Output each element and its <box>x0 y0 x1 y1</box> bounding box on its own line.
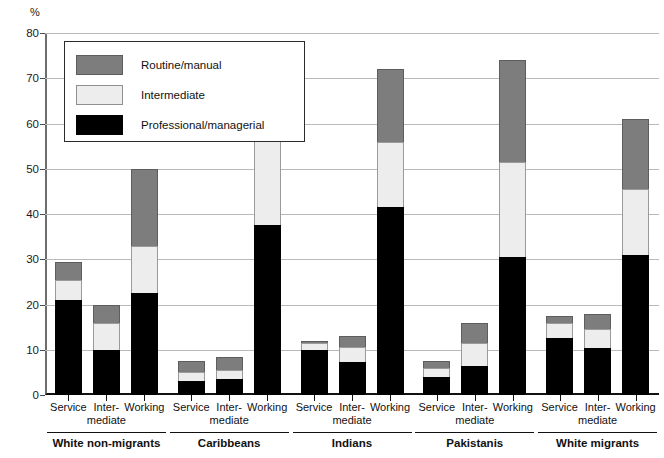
stacked-bar[interactable] <box>461 323 488 395</box>
bar-segment-routine-manual <box>377 69 404 141</box>
legend-label-routine-manual: Routine/manual <box>141 59 222 71</box>
bar-segment-routine-manual <box>423 361 450 368</box>
x-axis-category-label: Working <box>124 401 164 414</box>
group-rule <box>415 432 534 433</box>
group-name-text: White non-migrants <box>47 437 166 449</box>
bar-segment-intermediate <box>339 347 366 363</box>
bar-segment-professional-managerial <box>131 293 158 395</box>
bar-segment-intermediate <box>584 329 611 347</box>
bar-segment-professional-managerial <box>461 366 488 395</box>
stacked-bar[interactable] <box>301 341 328 395</box>
stacked-bar[interactable] <box>377 69 404 395</box>
y-axis-tick-label: 20 <box>26 299 39 311</box>
bar-segment-professional-managerial <box>622 255 649 395</box>
group-label: Pakistanis <box>415 432 534 449</box>
group-rule <box>538 432 657 433</box>
bar-segment-professional-managerial <box>178 381 205 395</box>
bar-segment-intermediate <box>55 280 82 300</box>
y-axis-tick-label: 40 <box>26 208 39 220</box>
routine-swatch <box>76 55 123 75</box>
x-axis-category-label: Working <box>247 401 287 414</box>
x-axis-category-label: Service <box>418 401 455 414</box>
x-axis-category-label: Inter- mediate <box>332 401 371 426</box>
stacked-bar[interactable] <box>55 262 82 395</box>
bar-segment-intermediate <box>254 135 281 226</box>
stacked-bar[interactable] <box>584 314 611 395</box>
y-axis-tick-label: 80 <box>26 27 39 39</box>
x-axis-category-label: Inter- mediate <box>210 401 249 426</box>
bar-segment-professional-managerial <box>301 350 328 395</box>
bar-segment-routine-manual <box>339 336 366 346</box>
stacked-bar[interactable] <box>216 357 243 395</box>
bar-segment-routine-manual <box>216 357 243 371</box>
bar-segment-routine-manual <box>131 169 158 246</box>
bar-segment-intermediate <box>178 372 205 381</box>
bar-segment-intermediate <box>216 370 243 379</box>
stacked-bar[interactable] <box>339 336 366 395</box>
bar-segment-intermediate <box>499 162 526 257</box>
y-axis-tick-label: 60 <box>26 118 39 130</box>
group-label: Indians <box>293 432 412 449</box>
professional-swatch <box>76 115 123 135</box>
x-axis-category-label: Inter- mediate <box>455 401 494 426</box>
group-label: White migrants <box>538 432 657 449</box>
bar-segment-intermediate <box>93 323 120 350</box>
stacked-bar[interactable] <box>499 60 526 395</box>
bar-segment-professional-managerial <box>423 377 450 395</box>
bar-segment-professional-managerial <box>216 379 243 395</box>
bar-segment-intermediate <box>423 368 450 377</box>
y-axis-tick-label: 0 <box>33 389 39 401</box>
legend-item-professional-managerial: Professional/managerial <box>76 111 304 139</box>
bar-segment-intermediate <box>301 343 328 350</box>
bar-segment-professional-managerial <box>546 338 573 395</box>
bar-segment-professional-managerial <box>377 207 404 395</box>
x-axis-category-label: Inter- mediate <box>578 401 617 426</box>
y-axis-tick-label: 70 <box>26 72 39 84</box>
legend-item-intermediate: Intermediate <box>76 81 304 109</box>
group-label: Caribbeans <box>170 432 289 449</box>
stacked-bar[interactable] <box>131 169 158 395</box>
legend-label-professional-managerial: Professional/managerial <box>141 119 264 131</box>
group-name-text: White migrants <box>538 437 657 449</box>
stacked-bar-chart: % 01020304050607080 ServiceInter- mediat… <box>0 0 664 458</box>
stacked-bar[interactable] <box>622 119 649 395</box>
bar-segment-routine-manual <box>546 316 573 323</box>
stacked-bar[interactable] <box>178 361 205 395</box>
x-axis-category-label: Working <box>370 401 410 414</box>
y-axis-unit-label: % <box>30 6 40 18</box>
bar-segment-professional-managerial <box>93 350 120 395</box>
group-name-text: Indians <box>293 437 412 449</box>
x-axis-category-label: Working <box>493 401 533 414</box>
stacked-bar[interactable] <box>423 361 450 395</box>
x-axis-category-label: Working <box>616 401 656 414</box>
group-name-text: Caribbeans <box>170 437 289 449</box>
y-axis-tick-label: 10 <box>26 344 39 356</box>
group-rule <box>170 432 289 433</box>
bar-segment-professional-managerial <box>254 225 281 395</box>
stacked-bar[interactable] <box>546 316 573 395</box>
chart-legend: Routine/manual Intermediate Professional… <box>64 41 305 142</box>
y-axis-tick-label: 30 <box>26 253 39 265</box>
bar-segment-routine-manual <box>93 305 120 323</box>
group-rule <box>47 432 166 433</box>
y-axis-tick-label: 50 <box>26 163 39 175</box>
x-axis-labels: ServiceInter- mediateWorkingServiceInter… <box>45 401 659 431</box>
bar-segment-routine-manual <box>55 262 82 280</box>
bar-segment-routine-manual <box>178 361 205 372</box>
legend-item-routine-manual: Routine/manual <box>76 51 304 79</box>
bar-segment-intermediate <box>546 323 573 339</box>
bar-segment-professional-managerial <box>499 257 526 395</box>
x-axis-category-label: Service <box>296 401 333 414</box>
intermediate-swatch <box>76 85 123 105</box>
x-axis-category-label: Service <box>173 401 210 414</box>
bar-segment-intermediate <box>131 246 158 294</box>
bar-segment-routine-manual <box>499 60 526 162</box>
legend-label-intermediate: Intermediate <box>141 89 205 101</box>
bar-segment-routine-manual <box>461 323 488 343</box>
bar-segment-routine-manual <box>622 119 649 189</box>
bar-segment-intermediate <box>622 189 649 255</box>
group-rule <box>293 432 412 433</box>
bar-segment-professional-managerial <box>339 362 366 395</box>
x-axis-group-labels: White non-migrantsCaribbeansIndiansPakis… <box>45 432 659 458</box>
stacked-bar[interactable] <box>93 305 120 396</box>
